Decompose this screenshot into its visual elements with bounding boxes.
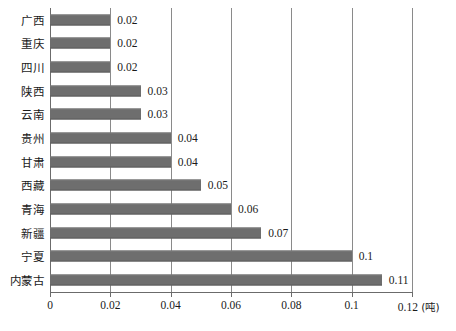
bar xyxy=(50,85,141,96)
bar-value-label: 0.02 xyxy=(117,14,137,26)
plot-area: 广西0.02重庆0.02四川0.02陕西0.03云南0.03贵州0.04甘肃0.… xyxy=(50,8,412,292)
category-label: 四川 xyxy=(21,59,44,75)
bar-row: 宁夏0.1 xyxy=(50,245,412,269)
bar-value-label: 0.07 xyxy=(268,227,288,239)
bar-value-label: 0.02 xyxy=(117,37,137,49)
bar-value-label: 0.05 xyxy=(208,179,228,191)
bar xyxy=(50,180,201,191)
bar-row: 西藏0.05 xyxy=(50,174,412,198)
bar xyxy=(50,38,110,49)
category-label: 青海 xyxy=(21,201,44,217)
x-tick-label-0.1: 0.1 xyxy=(344,299,358,311)
tick-mark-0.12 xyxy=(412,292,413,297)
tick-mark-0 xyxy=(50,292,51,297)
tick-mark-0.08 xyxy=(291,292,292,297)
category-label: 西藏 xyxy=(21,177,44,193)
x-tick-label-0.06: 0.06 xyxy=(221,299,241,311)
bar-row: 广西0.02 xyxy=(50,8,412,32)
bar-row: 贵州0.04 xyxy=(50,126,412,150)
x-tick-label-0.12: 0.12 (吨) xyxy=(398,299,440,314)
bar-value-label: 0.11 xyxy=(389,274,409,286)
category-label: 宁夏 xyxy=(21,248,44,264)
bar xyxy=(50,62,110,73)
bar xyxy=(50,251,352,262)
bar xyxy=(50,109,141,120)
gridline-0.12 xyxy=(412,8,413,292)
bar-row: 青海0.06 xyxy=(50,197,412,221)
horizontal-bar-chart: 广西0.02重庆0.02四川0.02陕西0.03云南0.03贵州0.04甘肃0.… xyxy=(0,0,456,331)
category-label: 贵州 xyxy=(21,130,44,146)
category-label: 新疆 xyxy=(21,225,44,241)
bar-value-label: 0.03 xyxy=(148,108,168,120)
bar-value-label: 0.02 xyxy=(117,61,137,73)
bar-row: 重庆0.02 xyxy=(50,32,412,56)
bar xyxy=(50,156,171,167)
category-label: 内蒙古 xyxy=(10,272,45,288)
bar-row: 新疆0.07 xyxy=(50,221,412,245)
tick-mark-0.02 xyxy=(110,292,111,297)
bar-row: 四川0.02 xyxy=(50,55,412,79)
bar xyxy=(50,133,171,144)
x-tick-label-0.02: 0.02 xyxy=(100,299,120,311)
bar-value-label: 0.03 xyxy=(148,85,168,97)
x-tick-label-0.08: 0.08 xyxy=(281,299,301,311)
category-label: 陕西 xyxy=(21,83,44,99)
tick-mark-0.04 xyxy=(171,292,172,297)
bar-value-label: 0.1 xyxy=(359,250,373,262)
category-label: 广西 xyxy=(21,12,44,28)
x-tick-label-0: 0 xyxy=(47,299,53,311)
bar-row: 陕西0.03 xyxy=(50,79,412,103)
bar-row: 内蒙古0.11 xyxy=(50,268,412,292)
bar-value-label: 0.06 xyxy=(238,203,258,215)
category-label: 甘肃 xyxy=(21,154,44,170)
bar xyxy=(50,275,382,286)
category-label: 云南 xyxy=(21,106,44,122)
bar xyxy=(50,14,110,25)
bar-row: 云南0.03 xyxy=(50,103,412,127)
bar-row: 甘肃0.04 xyxy=(50,150,412,174)
category-label: 重庆 xyxy=(21,35,44,51)
bar xyxy=(50,204,231,215)
x-tick-label-0.04: 0.04 xyxy=(161,299,181,311)
bar xyxy=(50,227,261,238)
bar-value-label: 0.04 xyxy=(178,132,198,144)
tick-mark-0.1 xyxy=(352,292,353,297)
x-axis-unit-label: (吨) xyxy=(418,301,440,313)
bar-value-label: 0.04 xyxy=(178,156,198,168)
tick-mark-0.06 xyxy=(231,292,232,297)
